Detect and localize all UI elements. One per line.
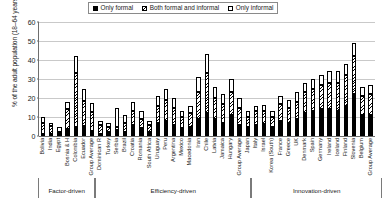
stacked-bar[interactable] — [188, 106, 192, 136]
stacked-bar[interactable] — [156, 96, 160, 136]
stacked-bar[interactable] — [213, 87, 217, 136]
category-label-slot: Macedonia — [185, 137, 193, 179]
category-label-slot: Iceland — [333, 137, 341, 179]
stacked-bar[interactable] — [270, 111, 274, 136]
bar-segment — [82, 89, 86, 100]
bar-segment — [336, 83, 340, 112]
bar-segment — [352, 56, 356, 94]
stacked-bar[interactable] — [82, 89, 86, 136]
bar-segment — [360, 96, 364, 115]
stacked-bar[interactable] — [106, 123, 110, 136]
stacked-bar[interactable] — [319, 75, 323, 136]
economy-group-band: Efficiency-driven — [95, 178, 251, 198]
stacked-bar[interactable] — [262, 105, 266, 136]
category-label-slot: UK — [292, 137, 300, 179]
white-swatch-icon — [228, 6, 233, 11]
bar-segment — [270, 117, 274, 127]
bar-segment — [336, 111, 340, 136]
category-label-slot: Latvia — [210, 137, 218, 179]
stacked-bar[interactable] — [147, 121, 151, 136]
bar-segment — [205, 113, 209, 136]
stacked-bar[interactable] — [139, 111, 143, 136]
stacked-bar[interactable] — [344, 64, 348, 136]
legend-label-only-formal: Only formal — [101, 4, 134, 12]
bar-slot — [178, 22, 186, 136]
bar-slot — [342, 22, 350, 136]
bar-slot — [170, 22, 178, 136]
bar-segment — [49, 134, 53, 136]
stacked-bar[interactable] — [237, 98, 241, 136]
stacked-bar[interactable] — [131, 102, 135, 136]
bar-slot — [293, 22, 301, 136]
bar-slot — [154, 22, 162, 136]
bar-segment — [229, 79, 233, 92]
category-label-slot: Israel — [259, 137, 267, 179]
bar-slot — [162, 22, 170, 136]
stacked-bar[interactable] — [41, 117, 45, 136]
stacked-bar[interactable] — [74, 56, 78, 136]
bar-series-container — [39, 22, 375, 136]
stacked-bar[interactable] — [123, 115, 127, 136]
x-axis-category-labels: BoliviaIndiaEgyptBosnia & HColombiaEcuad… — [38, 137, 374, 179]
stacked-bar[interactable] — [311, 79, 315, 136]
bar-segment — [287, 108, 291, 123]
stacked-bar[interactable] — [221, 94, 225, 136]
x-axis-label: Colombia — [72, 138, 78, 162]
bar-segment — [344, 64, 348, 75]
bar-slot — [236, 22, 244, 136]
bar-segment — [344, 75, 348, 105]
bar-segment — [360, 115, 364, 136]
bar-slot — [145, 22, 153, 136]
stacked-bar[interactable] — [303, 83, 307, 136]
bar-segment — [164, 100, 168, 121]
bar-segment — [90, 103, 94, 112]
stacked-bar[interactable] — [180, 111, 184, 136]
stacked-bar[interactable] — [164, 89, 168, 136]
stacked-bar[interactable] — [360, 87, 364, 136]
stacked-bar[interactable] — [352, 43, 356, 136]
stacked-bar[interactable] — [246, 111, 250, 136]
stacked-bar[interactable] — [90, 103, 94, 136]
stacked-bar[interactable] — [172, 98, 176, 136]
economy-group-label: Efficiency-driven — [96, 187, 250, 194]
stacked-bar[interactable] — [336, 71, 340, 136]
x-axis-label: Japan — [244, 138, 250, 153]
category-label-slot: Dominican R — [95, 137, 103, 179]
x-axis-label: UK — [293, 138, 299, 146]
stacked-bar[interactable] — [229, 79, 233, 136]
bar-segment — [246, 127, 250, 137]
bar-segment — [327, 71, 331, 82]
stacked-bar[interactable] — [278, 96, 282, 136]
bar-slot — [367, 22, 375, 136]
stacked-bar[interactable] — [115, 108, 119, 136]
stacked-bar[interactable] — [327, 71, 331, 136]
stacked-bar[interactable] — [49, 123, 53, 136]
stacked-bar[interactable] — [368, 85, 372, 136]
bar-slot — [350, 22, 358, 136]
bar-segment — [352, 43, 356, 56]
stacked-bar[interactable] — [98, 121, 102, 136]
bar-segment — [221, 104, 225, 123]
category-label-slot: Denmark — [300, 137, 308, 179]
bar-segment — [98, 134, 102, 136]
stacked-bar[interactable] — [205, 54, 209, 136]
bar-slot — [326, 22, 334, 136]
stacked-bar[interactable] — [65, 102, 69, 136]
bar-segment — [229, 92, 233, 115]
stacked-bar[interactable] — [254, 106, 258, 136]
legend-item-both-formal-and-informal: Both formal and informal — [142, 4, 219, 12]
x-axis-label: Hungary — [227, 138, 233, 159]
stacked-bar[interactable] — [57, 127, 61, 136]
stacked-bar[interactable] — [287, 100, 291, 136]
bar-slot — [47, 22, 55, 136]
bar-segment — [336, 71, 340, 82]
stacked-bar[interactable] — [295, 92, 299, 136]
bar-slot — [260, 22, 268, 136]
stacked-bar[interactable] — [196, 77, 200, 136]
x-axis-label: Chile — [203, 138, 209, 151]
bar-segment — [368, 85, 372, 95]
bar-segment — [237, 125, 241, 136]
bar-segment — [327, 109, 331, 136]
bar-segment — [295, 92, 299, 102]
